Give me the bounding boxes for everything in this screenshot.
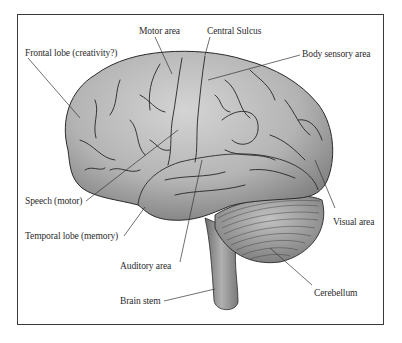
label-motor-area: Motor area xyxy=(139,26,180,37)
label-cerebellum: Cerebellum xyxy=(314,288,357,299)
label-central-sulcus: Central Sulcus xyxy=(207,26,261,37)
label-visual-area: Visual area xyxy=(333,217,374,228)
label-brain-stem: Brain stem xyxy=(120,296,160,307)
label-body-sensory-area: Body sensory area xyxy=(302,49,370,60)
leader-line-temporal-lobe xyxy=(124,207,145,236)
label-speech-motor: Speech (motor) xyxy=(25,196,82,207)
leader-line-brain-stem xyxy=(164,289,215,301)
label-auditory-area: Auditory area xyxy=(120,261,171,272)
leader-line-frontal-lobe xyxy=(28,58,80,118)
cerebrum-shape xyxy=(65,51,332,220)
label-frontal-lobe: Frontal lobe (creativity?) xyxy=(25,48,117,59)
label-temporal-lobe: Temporal lobe (memory) xyxy=(25,231,118,242)
